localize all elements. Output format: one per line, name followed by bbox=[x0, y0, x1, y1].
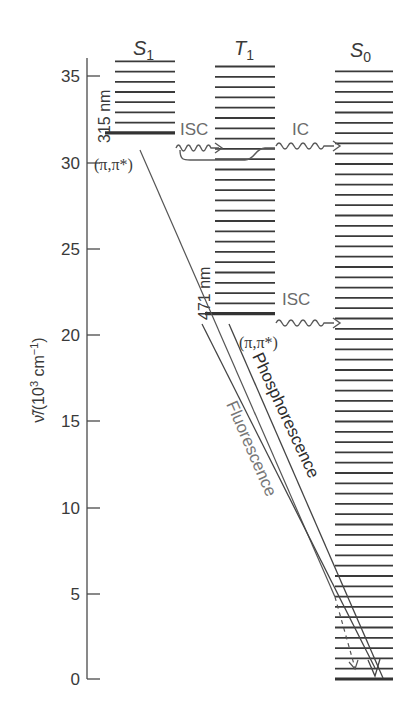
isc-s1-t1-label: ISC bbox=[180, 120, 208, 139]
state-label-s0: S0 bbox=[350, 39, 371, 65]
jablonski-diagram: 0 5 10 15 20 25 30 35 ν̃/(103 cm−1) S1 T… bbox=[0, 0, 420, 715]
energy-axis bbox=[87, 58, 100, 679]
tick-label: 20 bbox=[61, 326, 80, 345]
fluorescence-label: Fluorescence bbox=[222, 398, 280, 499]
isc-t1-s0-label: ISC bbox=[282, 290, 310, 309]
tick-label: 35 bbox=[61, 67, 80, 86]
t1-character-label: (π,π*) bbox=[239, 334, 278, 352]
fluorescence-arrow bbox=[140, 150, 358, 669]
axis-title: ν̃/(103 cm−1) bbox=[28, 337, 47, 422]
axis-tick-labels: 0 5 10 15 20 25 30 35 bbox=[61, 67, 80, 689]
ic-t1-s0-arrow bbox=[276, 141, 340, 151]
tick-label: 25 bbox=[61, 240, 80, 259]
state-label-s1: S1 bbox=[133, 37, 154, 63]
tick-label: 15 bbox=[61, 412, 80, 431]
s1-vibrational-levels bbox=[105, 61, 175, 132]
tick-label: 0 bbox=[71, 670, 80, 689]
tick-label: 30 bbox=[61, 154, 80, 173]
ic-t1-s0-label: IC bbox=[292, 120, 309, 139]
isc-s1-t1-arrow bbox=[176, 143, 275, 160]
s1-character-label: (π,π*) bbox=[94, 156, 133, 174]
tick-label: 5 bbox=[71, 585, 80, 604]
isc-t1-s0-arrow bbox=[276, 318, 340, 328]
state-label-t1: T1 bbox=[234, 37, 254, 63]
tick-label: 10 bbox=[61, 499, 80, 518]
s1-wavelength-label: 315 nm bbox=[96, 90, 113, 143]
t1-vibrational-levels bbox=[205, 67, 275, 314]
